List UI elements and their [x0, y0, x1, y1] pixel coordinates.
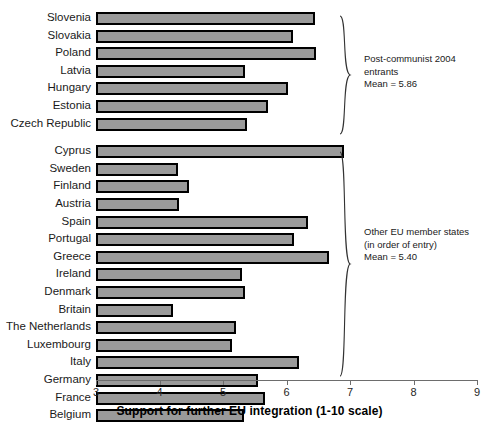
category-label-slovakia: Slovakia	[48, 29, 91, 42]
category-label-britain: Britain	[58, 303, 91, 316]
bar-slovakia	[96, 30, 293, 43]
bar-row: The Netherlands	[96, 321, 477, 334]
bar-france	[96, 392, 265, 405]
category-label-cyprus: Cyprus	[55, 144, 91, 157]
bar-row: Austria	[96, 198, 477, 211]
group-2-annotation: Other EU member states (in order of entr…	[364, 226, 469, 264]
bar-row: Denmark	[96, 286, 477, 299]
bar-row: Britain	[96, 304, 477, 317]
category-label-sweden: Sweden	[49, 162, 91, 175]
bar-austria	[96, 198, 179, 211]
x-tick-5	[223, 380, 224, 385]
category-label-finland: Finland	[53, 179, 91, 192]
category-label-austria: Austria	[55, 197, 91, 210]
x-tick-8	[414, 380, 415, 385]
x-tick-label-6: 6	[275, 386, 299, 398]
x-tick-6	[287, 380, 288, 385]
x-tick-4	[160, 380, 161, 385]
bar-row: Estonia	[96, 100, 477, 113]
bar-chart: SloveniaSlovakiaPolandLatviaHungaryEston…	[0, 0, 499, 432]
group-2-brace	[338, 150, 360, 378]
bar-cyprus	[96, 145, 344, 158]
bar-the-netherlands	[96, 321, 236, 334]
bar-spain	[96, 216, 308, 229]
bar-row: Sweden	[96, 163, 477, 176]
x-tick-label-3: 3	[84, 386, 108, 398]
bar-italy	[96, 356, 299, 369]
bar-hungary	[96, 82, 288, 95]
category-label-denmark: Denmark	[44, 285, 91, 298]
group-1-brace	[338, 14, 360, 136]
category-label-latvia: Latvia	[60, 64, 91, 77]
bar-sweden	[96, 163, 178, 176]
bar-row: Slovenia	[96, 12, 477, 25]
bar-row: Ireland	[96, 268, 477, 281]
bar-finland	[96, 180, 189, 193]
x-tick-label-7: 7	[338, 386, 362, 398]
bar-latvia	[96, 65, 245, 78]
bar-row: Slovakia	[96, 30, 477, 43]
category-label-slovenia: Slovenia	[47, 11, 91, 24]
category-label-estonia: Estonia	[53, 99, 91, 112]
bar-luxembourg	[96, 339, 232, 352]
bar-row: Luxembourg	[96, 339, 477, 352]
bar-row: Italy	[96, 356, 477, 369]
category-label-poland: Poland	[55, 46, 91, 59]
x-tick-label-5: 5	[211, 386, 235, 398]
x-tick-label-9: 9	[465, 386, 489, 398]
x-axis-title: Support for further EU integration (1-10…	[0, 404, 499, 418]
category-label-czech-republic: Czech Republic	[10, 117, 91, 130]
bar-slovenia	[96, 12, 315, 25]
x-tick-7	[350, 380, 351, 385]
bar-denmark	[96, 286, 245, 299]
bar-row: Czech Republic	[96, 118, 477, 131]
category-label-the-netherlands: The Netherlands	[6, 320, 91, 333]
category-label-germany: Germany	[44, 373, 91, 386]
category-label-ireland: Ireland	[56, 267, 91, 280]
category-label-luxembourg: Luxembourg	[27, 338, 91, 351]
bar-poland	[96, 47, 316, 60]
bar-estonia	[96, 100, 268, 113]
category-label-greece: Greece	[53, 250, 91, 263]
x-tick-3	[96, 380, 97, 385]
category-label-portugal: Portugal	[48, 232, 91, 245]
category-label-spain: Spain	[62, 215, 91, 228]
bar-czech-republic	[96, 118, 247, 131]
bar-ireland	[96, 268, 242, 281]
x-tick-label-8: 8	[402, 386, 426, 398]
bar-row: Finland	[96, 180, 477, 193]
x-tick-label-4: 4	[148, 386, 172, 398]
category-label-italy: Italy	[70, 355, 91, 368]
x-tick-9	[477, 380, 478, 385]
bar-greece	[96, 251, 329, 264]
bar-row: Cyprus	[96, 145, 477, 158]
group-1-annotation: Post-communist 2004 entrants Mean = 5.86	[364, 53, 456, 91]
bar-portugal	[96, 233, 294, 246]
bar-britain	[96, 304, 173, 317]
category-label-hungary: Hungary	[48, 81, 91, 94]
